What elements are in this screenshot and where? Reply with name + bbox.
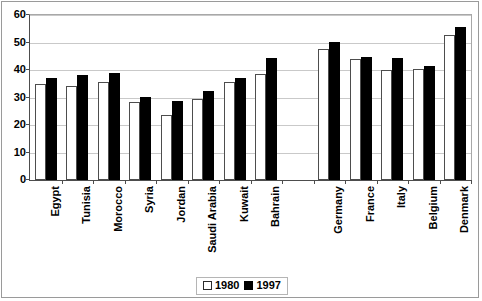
y-tick-label-60: 60	[2, 9, 26, 20]
bar-Belgium-1980	[413, 69, 424, 180]
bar-Italy-1980	[381, 70, 392, 180]
x-label-bahrain: Bahrain	[270, 186, 281, 227]
y-tick-label-10: 10	[2, 147, 26, 158]
y-tick-label-50: 50	[2, 37, 26, 48]
x-label-belgium: Belgium	[428, 186, 439, 229]
bar-Egypt-1997	[46, 78, 57, 180]
x-label-france: France	[365, 186, 376, 222]
x-label-tunisia: Tunisia	[81, 186, 92, 224]
bar-chart: 6050403020100 EgyptTunisiaMoroccoSyriaJo…	[0, 0, 482, 301]
bar-Morocco-1980	[98, 82, 109, 180]
bar-Jordan-1997	[172, 101, 183, 180]
x-label-saudi-arabia: Saudi Arabia	[207, 186, 218, 253]
bar-France-1997	[361, 57, 372, 180]
bar-Tunisia-1997	[77, 75, 88, 180]
bar-Saudi Arabia-1997	[203, 91, 214, 180]
y-tick-label-0: 0	[2, 174, 26, 185]
bar-Denmark-1980	[444, 35, 455, 180]
bar-Bahrain-1980	[255, 74, 266, 180]
x-label-kuwait: Kuwait	[239, 186, 250, 222]
y-tick-label-30: 30	[2, 92, 26, 103]
y-tick-label-40: 40	[2, 64, 26, 75]
legend-label-1997: 1997	[256, 280, 280, 291]
bar-Kuwait-1980	[224, 82, 235, 180]
x-label-jordan: Jordan	[176, 186, 187, 223]
bar-Saudi Arabia-1980	[192, 99, 203, 180]
legend-swatch-1997	[244, 281, 253, 290]
bar-Kuwait-1997	[235, 78, 246, 180]
legend-entry-1997: 1997	[244, 280, 280, 291]
bar-Bahrain-1997	[266, 58, 277, 180]
chart-legend: 19801997	[196, 277, 288, 295]
bar-Italy-1997	[392, 58, 403, 180]
gridline-20	[30, 125, 471, 126]
legend-swatch-1980	[203, 281, 212, 290]
legend-entry-1980: 1980	[203, 280, 239, 291]
legend-label-1980: 1980	[215, 280, 239, 291]
x-axis-category-labels: EgyptTunisiaMoroccoSyriaJordanSaudi Arab…	[29, 182, 472, 268]
x-label-italy: Italy	[396, 186, 407, 208]
bar-Egypt-1980	[35, 84, 46, 180]
bar-Syria-1980	[129, 102, 140, 180]
bar-Germany-1997	[329, 42, 340, 180]
bar-Jordan-1980	[161, 115, 172, 180]
x-label-denmark: Denmark	[459, 186, 470, 233]
plot-area	[29, 14, 472, 181]
gridline-40	[30, 70, 471, 71]
gridline-30	[30, 98, 471, 99]
y-tick-label-20: 20	[2, 119, 26, 130]
x-label-syria: Syria	[144, 186, 155, 213]
bar-Morocco-1997	[109, 73, 120, 180]
gridline-50	[30, 43, 471, 44]
gridline-10	[30, 153, 471, 154]
bar-Denmark-1997	[455, 27, 466, 180]
bar-Belgium-1997	[424, 66, 435, 180]
gridline-60	[30, 15, 471, 16]
x-label-egypt: Egypt	[50, 186, 61, 217]
x-label-germany: Germany	[333, 186, 344, 234]
bar-Germany-1980	[318, 49, 329, 180]
bar-Tunisia-1980	[66, 86, 77, 180]
y-axis: 6050403020100	[0, 0, 26, 195]
bar-Syria-1997	[140, 97, 151, 180]
bar-France-1980	[350, 59, 361, 180]
x-label-morocco: Morocco	[113, 186, 124, 232]
